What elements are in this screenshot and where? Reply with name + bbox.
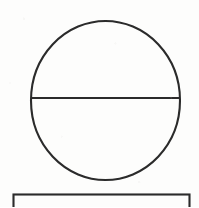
rectangle-outline xyxy=(14,195,190,208)
circle-outline xyxy=(31,21,180,180)
line-drawing xyxy=(0,0,199,207)
figure-canvas: Circle bisected by horizontal diameter a… xyxy=(0,0,199,207)
